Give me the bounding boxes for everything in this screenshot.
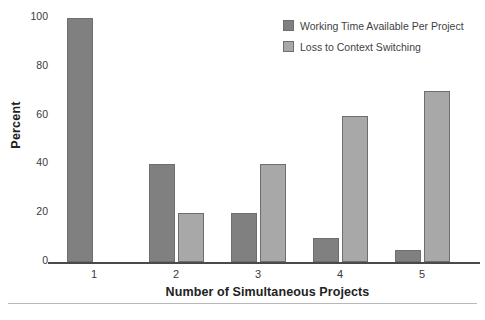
y-tick-label: 20 [18,206,48,216]
y-tick-label: 80 [18,60,48,70]
x-tick-label: 4 [320,268,360,280]
x-tick-label: 5 [402,268,442,280]
chart-figure: Percent 100 80 60 40 20 0 12345 Number o… [0,0,485,320]
y-axis-ticks: 100 80 60 40 20 0 [18,0,48,320]
x-tick-label: 1 [74,268,114,280]
bar [231,213,257,262]
bar [313,238,339,262]
y-tick-label: 60 [18,109,48,119]
bar [342,116,368,262]
bar [424,91,450,262]
x-tick-label: 3 [238,268,278,280]
y-tick-label: 40 [18,157,48,167]
legend-label: Loss to Context Switching [300,41,421,53]
legend-item: Loss to Context Switching [283,38,485,55]
x-axis-ticks: 12345 [55,268,480,284]
legend-item: Working Time Available Per Project [283,17,485,34]
legend-swatch-icon [283,41,294,52]
x-tick-label: 2 [156,268,196,280]
y-tick-label: 0 [18,255,48,265]
x-axis-title: Number of Simultaneous Projects [55,285,480,299]
bar [178,213,204,262]
x-axis-line [48,262,480,264]
bar [395,250,421,262]
bar [260,164,286,262]
y-tick-label: 100 [18,11,48,21]
legend: Working Time Available Per Project Loss … [283,17,485,59]
legend-label: Working Time Available Per Project [300,20,464,32]
legend-swatch-icon [283,20,294,31]
bar [149,164,175,262]
bar [67,18,93,262]
footer-divider [8,303,477,304]
